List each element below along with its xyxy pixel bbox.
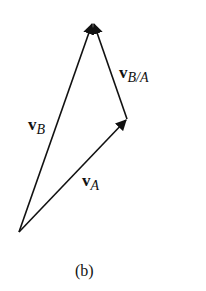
label-vB-symbol: v — [28, 115, 37, 134]
label-vBA: vB/A — [119, 63, 149, 86]
label-vBA-symbol: v — [119, 63, 128, 82]
label-vB-subscript: B — [37, 122, 46, 137]
label-vA-subscript: A — [91, 178, 100, 193]
label-vBA-subscript: B/A — [128, 70, 149, 85]
label-vA: vA — [82, 171, 99, 194]
label-vB: vB — [28, 115, 45, 138]
figure-caption: (b) — [75, 262, 94, 280]
vector-triangle-diagram — [0, 0, 206, 291]
label-vA-symbol: v — [82, 171, 91, 190]
